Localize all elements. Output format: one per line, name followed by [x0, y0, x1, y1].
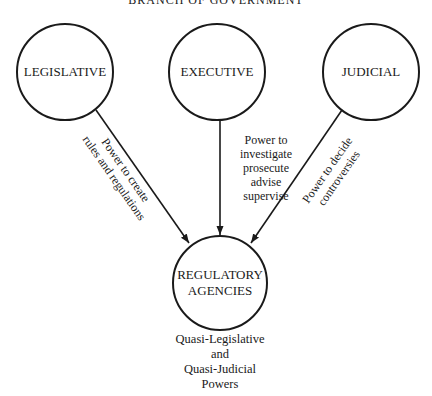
executive-label: EXECUTIVE	[169, 64, 265, 80]
executive-edge-line1: Power to	[226, 133, 306, 147]
executive-edge-line3: prosecute	[226, 161, 306, 175]
caption-line4: Powers	[170, 377, 270, 392]
executive-edge-line5: supervise	[226, 189, 306, 203]
regulatory-label-line1: REGULATORY	[173, 267, 267, 283]
caption-line3: Quasi-Judicial	[170, 362, 270, 377]
caption-line1: Quasi-Legislative	[170, 332, 270, 347]
executive-edge-line4: advise	[226, 175, 306, 189]
judicial-label: JUDICIAL	[323, 64, 419, 80]
regulatory-label-line2: AGENCIES	[173, 283, 267, 299]
caption-line2: and	[170, 347, 270, 362]
executive-edge-label: Power to investigate prosecute advise su…	[226, 133, 306, 203]
executive-edge-line2: investigate	[226, 147, 306, 161]
legislative-label: LEGISLATIVE	[17, 64, 113, 80]
regulatory-agencies-label: REGULATORY AGENCIES	[173, 267, 267, 299]
regulatory-caption: Quasi-Legislative and Quasi-Judicial Pow…	[170, 332, 270, 392]
